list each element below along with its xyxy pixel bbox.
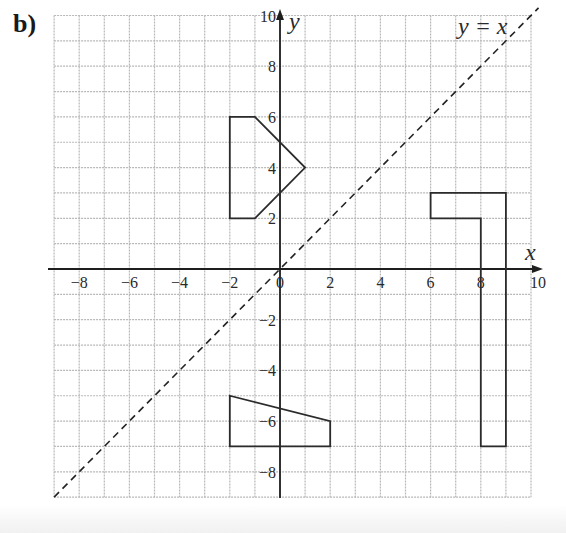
x-tick-label: 4 (376, 274, 384, 291)
y-axis-arrow-icon (276, 9, 284, 20)
x-tick-label: 0 (276, 274, 284, 291)
x-tick-label: 6 (427, 274, 435, 291)
page-bleed-through (0, 505, 566, 533)
y-tick-label: 4 (268, 160, 276, 177)
x-tick-label: −4 (171, 274, 188, 291)
y-tick-label: 10 (260, 8, 276, 25)
mirror-line (54, 8, 538, 497)
x-tick-label: 2 (326, 274, 334, 291)
mirror-line-label: y = x (456, 13, 508, 39)
y-axis-label: y (287, 8, 300, 34)
x-axis-label: x (524, 239, 536, 265)
x-tick-label: −6 (121, 274, 138, 291)
y-tick-label: 2 (268, 210, 276, 227)
y-tick-label: −2 (259, 312, 276, 329)
x-tick-label: −8 (71, 274, 88, 291)
part-label: b) (13, 9, 36, 39)
x-axis-arrow-icon (532, 265, 543, 273)
y-tick-label: −6 (259, 413, 276, 430)
coordinate-grid-figure: b) −8−6−4−20246810108642−2−4−6−8 y = x x… (0, 0, 566, 533)
y-tick-label: −8 (259, 464, 276, 481)
mirror-line-y-equals-x (54, 8, 538, 497)
y-tick-label: −4 (259, 362, 276, 379)
x-tick-label: −2 (221, 274, 238, 291)
plot-area: −8−6−4−20246810108642−2−4−6−8 y = x x y (0, 0, 566, 533)
x-tick-label: 10 (530, 274, 546, 291)
y-tick-label: 6 (268, 109, 276, 126)
y-tick-label: 8 (268, 58, 276, 75)
